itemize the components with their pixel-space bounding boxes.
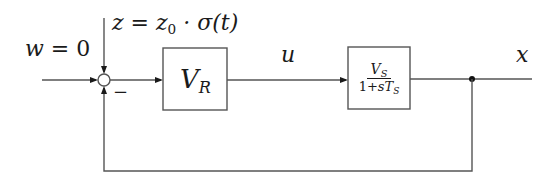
feedback-path bbox=[104, 79, 472, 171]
summing-junction bbox=[98, 74, 110, 86]
reference-symbol: w bbox=[25, 36, 44, 61]
disturbance-z0-sub: 0 bbox=[168, 21, 177, 37]
plant-denominator-sub: S bbox=[393, 86, 399, 96]
plant-denominator-prefix: 1+ bbox=[359, 79, 378, 94]
disturbance-step-term: · σ(t) bbox=[176, 10, 238, 35]
disturbance-equals: = bbox=[124, 10, 156, 35]
plant-numerator-sub: S bbox=[381, 68, 388, 79]
block-diagram bbox=[0, 0, 550, 183]
disturbance-symbol: z bbox=[112, 10, 124, 35]
controller-input-arrowhead bbox=[155, 77, 163, 83]
output-signal-label: x bbox=[516, 44, 528, 66]
reference-equals: = bbox=[51, 36, 76, 61]
controller-label: VR bbox=[180, 66, 211, 92]
feedback-arrowhead bbox=[101, 86, 107, 94]
control-signal-label: u bbox=[281, 44, 295, 66]
disturbance-arrowhead bbox=[101, 66, 107, 74]
plant-numerator: VS bbox=[367, 62, 392, 79]
reference-value: 0 bbox=[76, 36, 90, 61]
plant-transfer-function: VS 1+sTS bbox=[348, 47, 410, 109]
controller-label-sub: R bbox=[199, 78, 211, 97]
plant-input-arrowhead bbox=[340, 77, 348, 83]
disturbance-z0-base: z bbox=[156, 10, 168, 35]
feedback-minus-sign: − bbox=[113, 83, 128, 101]
plant-denominator-base: T bbox=[384, 79, 393, 94]
plant-numerator-base: V bbox=[371, 61, 381, 77]
controller-label-base: V bbox=[180, 64, 199, 94]
plant-denominator: 1+sTS bbox=[359, 79, 400, 94]
disturbance-label: z = z0 · σ(t) bbox=[112, 12, 238, 34]
reference-arrowhead bbox=[90, 77, 98, 83]
reference-label: w = 0 bbox=[25, 38, 90, 60]
